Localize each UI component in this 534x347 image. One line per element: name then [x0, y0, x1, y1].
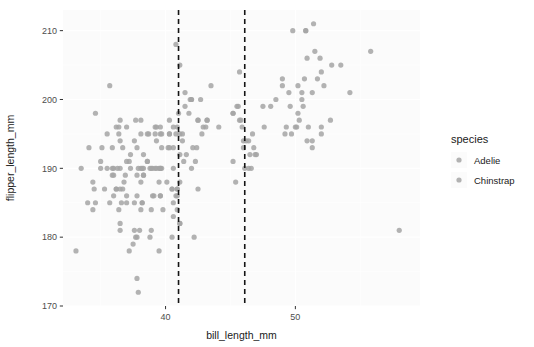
data-point [169, 235, 174, 240]
data-point [192, 235, 197, 240]
legend-entry-label: Chinstrap [474, 175, 515, 186]
data-point [186, 111, 191, 116]
legend-entries: AdelieChinstrap [451, 152, 515, 188]
data-point [79, 166, 84, 171]
data-point [282, 131, 287, 136]
data-point [110, 166, 115, 171]
data-point [169, 186, 174, 191]
data-point [247, 152, 252, 157]
data-point [116, 131, 121, 136]
data-point [194, 145, 199, 150]
data-point [132, 200, 137, 205]
data-point [93, 111, 98, 116]
data-point [141, 166, 146, 171]
data-point [171, 124, 176, 129]
data-point [116, 124, 121, 129]
data-point [119, 200, 124, 205]
data-point [193, 159, 198, 164]
data-point [123, 173, 128, 178]
data-point [118, 166, 123, 171]
x-tick-label: 40 [161, 312, 171, 322]
data-point [124, 193, 129, 198]
data-point [177, 131, 182, 136]
data-point [319, 131, 324, 136]
data-point [328, 118, 333, 123]
data-point [132, 228, 137, 233]
data-point [150, 193, 155, 198]
data-point [310, 138, 315, 143]
data-point [286, 90, 291, 95]
data-point [329, 62, 334, 67]
data-point [268, 104, 273, 109]
data-point [141, 173, 146, 178]
data-point [145, 159, 150, 164]
y-tick-label: 190 [42, 164, 57, 174]
data-point [131, 241, 136, 246]
data-point [167, 118, 172, 123]
data-point [98, 159, 103, 164]
data-point [236, 104, 241, 109]
data-point [260, 104, 265, 109]
data-point [118, 186, 123, 191]
y-axis-title: flipper_length_mm [4, 115, 16, 202]
data-point [140, 200, 145, 205]
data-point [237, 69, 242, 74]
data-point [347, 90, 352, 95]
data-point [321, 83, 326, 88]
data-point [134, 276, 139, 281]
plot-panel-background [63, 10, 420, 306]
legend-entry[interactable]: Adelie [451, 152, 500, 168]
data-point [289, 131, 294, 136]
data-point [153, 131, 158, 136]
x-axis: 4050 [161, 306, 301, 322]
data-point [294, 124, 299, 129]
data-point [295, 111, 300, 116]
data-point [284, 124, 289, 129]
data-point [303, 28, 308, 33]
data-point [86, 145, 91, 150]
data-point [299, 97, 304, 102]
data-point [136, 290, 141, 295]
data-point [110, 145, 115, 150]
data-point [138, 179, 143, 184]
legend-entry[interactable]: Chinstrap [451, 172, 515, 188]
y-tick-label: 200 [42, 95, 57, 105]
legend-key-marker [456, 177, 461, 182]
data-point [304, 138, 309, 143]
data-point [203, 124, 208, 129]
data-point [90, 207, 95, 212]
data-point [154, 138, 159, 143]
y-tick-label: 210 [42, 26, 57, 36]
data-point [199, 131, 204, 136]
data-point [156, 179, 161, 184]
data-point [121, 179, 126, 184]
data-point [273, 97, 278, 102]
data-point [118, 118, 123, 123]
data-point [134, 145, 139, 150]
data-point [195, 118, 200, 123]
data-point [312, 49, 317, 54]
data-point [301, 104, 306, 109]
data-point [164, 179, 169, 184]
data-point [306, 124, 311, 129]
data-point [149, 207, 154, 212]
data-point [145, 131, 150, 136]
data-point [315, 76, 320, 81]
data-point [304, 56, 309, 61]
data-point [253, 152, 258, 157]
data-point [280, 76, 285, 81]
data-point [250, 131, 255, 136]
data-point [149, 228, 154, 233]
data-point [167, 131, 172, 136]
data-point [184, 152, 189, 157]
data-point [127, 248, 132, 253]
data-point [107, 200, 112, 205]
y-tick-label: 180 [42, 232, 57, 242]
data-point [230, 159, 235, 164]
data-point [310, 90, 315, 95]
legend: species AdelieChinstrap [451, 133, 515, 188]
data-point [93, 200, 98, 205]
data-point [118, 221, 123, 226]
data-point [73, 248, 78, 253]
data-point [171, 200, 176, 205]
